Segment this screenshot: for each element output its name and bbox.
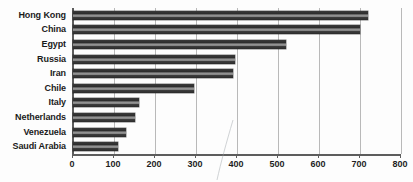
tick-label-500: 500: [269, 160, 284, 169]
bar-chart: Hong Kong China Egypt Russia Iran Chile …: [0, 0, 413, 182]
x-axis-line: [72, 154, 400, 156]
tick-label-400: 400: [228, 160, 243, 169]
category-label-hong-kong: Hong Kong: [0, 8, 70, 23]
tick-label-300: 300: [187, 160, 202, 169]
bar-row: [73, 139, 401, 154]
bar-venezuela[interactable]: [73, 128, 126, 137]
category-label-chile: Chile: [0, 81, 70, 96]
tick-label-0: 0: [69, 160, 74, 169]
bar-row: [73, 96, 401, 111]
category-axis: Hong Kong China Egypt Russia Iran Chile …: [0, 8, 70, 154]
category-label-italy: Italy: [0, 96, 70, 111]
category-label-netherlands: Netherlands: [0, 110, 70, 125]
bar-row: [73, 66, 401, 81]
bar-chile[interactable]: [73, 84, 194, 93]
bar-china[interactable]: [73, 25, 360, 34]
gridline-800: [401, 8, 402, 154]
bar-row: [73, 37, 401, 52]
bar-row: [73, 52, 401, 67]
tick-mark-200: [154, 154, 155, 158]
bar-saudi-arabia[interactable]: [73, 142, 118, 151]
tick-mark-300: [195, 154, 196, 158]
bar-series: [73, 8, 401, 154]
tick-label-600: 600: [310, 160, 325, 169]
bar-italy[interactable]: [73, 98, 139, 107]
plot-area: [72, 8, 401, 154]
bar-iran[interactable]: [73, 69, 233, 78]
tick-label-100: 100: [105, 160, 120, 169]
bar-row: [73, 110, 401, 125]
tick-label-700: 700: [351, 160, 366, 169]
tick-mark-600: [318, 154, 319, 158]
bar-egypt[interactable]: [73, 40, 286, 49]
bar-netherlands[interactable]: [73, 113, 135, 122]
tick-label-200: 200: [146, 160, 161, 169]
bar-row: [73, 8, 401, 23]
category-label-venezuela: Venezuela: [0, 125, 70, 140]
tick-mark-400: [236, 154, 237, 158]
bar-row: [73, 125, 401, 140]
bar-russia[interactable]: [73, 55, 235, 64]
category-label-iran: Iran: [0, 66, 70, 81]
bar-hong-kong[interactable]: [73, 11, 368, 20]
tick-mark-700: [359, 154, 360, 158]
category-label-russia: Russia: [0, 52, 70, 67]
x-axis-tick-labels: 0100200300400500600700800: [72, 160, 400, 176]
tick-mark-500: [277, 154, 278, 158]
tick-mark-0: [72, 154, 73, 158]
tick-mark-100: [113, 154, 114, 158]
bar-row: [73, 81, 401, 96]
tick-mark-800: [400, 154, 401, 158]
category-label-china: China: [0, 23, 70, 38]
tick-label-800: 800: [392, 160, 407, 169]
bar-row: [73, 23, 401, 38]
category-label-egypt: Egypt: [0, 37, 70, 52]
category-label-saudi-arabia: Saudi Arabia: [0, 139, 70, 154]
